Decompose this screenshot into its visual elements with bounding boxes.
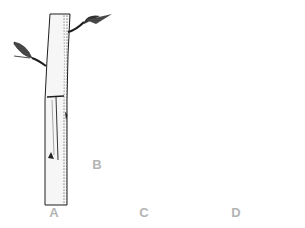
- stem-a: [14, 14, 112, 205]
- panel-label-a: A: [44, 205, 64, 220]
- grafting-illustration: [0, 0, 305, 228]
- panel-label-b: B: [87, 157, 107, 172]
- panel-label-c: C: [134, 205, 154, 220]
- panel-label-d: D: [226, 205, 246, 220]
